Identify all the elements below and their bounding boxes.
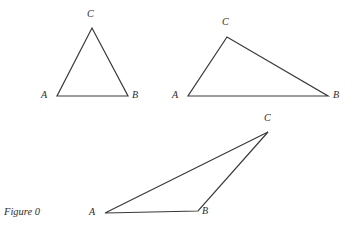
triangle-1-vertex-label-c: C bbox=[87, 9, 94, 19]
triangle-2 bbox=[188, 37, 328, 96]
triangle-3 bbox=[105, 132, 268, 213]
triangle-3-vertex-label-a: A bbox=[89, 207, 95, 217]
triangle-3-vertex-label-c: C bbox=[264, 113, 271, 123]
figure-canvas-root: ABCABCABC Figure 0 bbox=[0, 0, 354, 241]
triangle-2-vertex-label-c: C bbox=[222, 17, 229, 27]
triangle-1-vertex-label-b: B bbox=[132, 90, 138, 100]
triangles-figure-svg bbox=[0, 0, 354, 241]
triangle-1-vertex-label-a: A bbox=[41, 90, 47, 100]
triangle-1 bbox=[57, 28, 128, 96]
triangle-3-vertex-label-b: B bbox=[202, 206, 208, 216]
triangle-2-vertex-label-a: A bbox=[172, 90, 178, 100]
triangle-2-vertex-label-b: B bbox=[333, 90, 339, 100]
figure-caption: Figure 0 bbox=[4, 206, 40, 217]
